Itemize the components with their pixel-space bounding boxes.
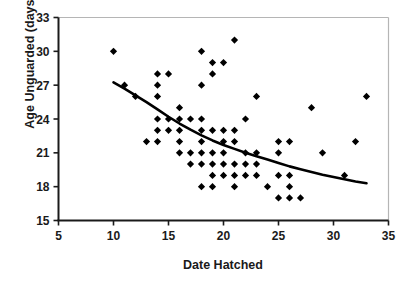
x-tick-label: 15	[162, 229, 176, 243]
x-tick-label: 25	[272, 229, 286, 243]
y-tick-label: 18	[36, 180, 50, 194]
x-tick-label: 35	[382, 229, 396, 243]
y-axis-title: Age Unguarded (days)	[23, 0, 41, 152]
y-tick-label: 15	[36, 214, 50, 228]
plot-canvas: 151821242730335101520253035	[0, 0, 408, 283]
x-tick-label: 10	[107, 229, 121, 243]
x-axis-title: Date Hatched	[58, 258, 388, 272]
x-tick-label: 5	[55, 229, 62, 243]
plot-area-background	[59, 18, 389, 221]
scatter-chart-figure: 151821242730335101520253035 Age Unguarde…	[0, 0, 408, 283]
x-tick-label: 30	[327, 229, 341, 243]
x-tick-label: 20	[217, 229, 231, 243]
